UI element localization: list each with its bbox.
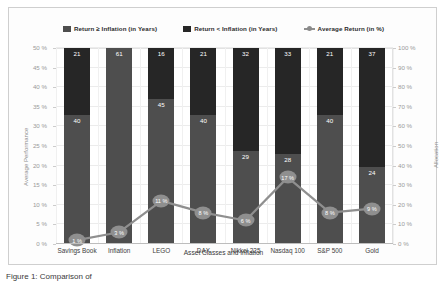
line-data-point-label: 17 % [281, 174, 294, 180]
line-data-point-label: 11 % [155, 198, 167, 204]
chart-legend: Return ≥ Inflation (in Years)Return < In… [9, 25, 438, 32]
line-data-point-label: 6 % [241, 217, 251, 223]
y-axis-left-tick-label: 45 % [13, 64, 47, 71]
y-axis-tickmark [393, 166, 396, 167]
legend-line-marker-icon [304, 28, 315, 30]
line-data-point-marker[interactable]: 17 % [279, 171, 296, 184]
y-axis-tickmark [53, 68, 56, 69]
legend-item-1[interactable]: Return < Inflation (in Years) [183, 25, 277, 32]
y-axis-right-tick-label: 40 % [398, 162, 432, 169]
legend-item-0[interactable]: Return ≥ Inflation (in Years) [63, 25, 157, 32]
x-axis-category-labels: Savings BookInflationLEGODAXNikkei 225Na… [56, 247, 393, 259]
y-axis-left-tick-label: 35 % [13, 103, 47, 110]
plot-area: 2140061164521403229332821403724 1 %3 %11… [56, 48, 393, 244]
line-data-point-marker[interactable]: 8 % [195, 206, 212, 219]
line-data-point-marker[interactable]: 9 % [363, 202, 380, 215]
y-axis-right-tick-label: 80 % [398, 83, 432, 90]
y-axis-tickmark [53, 166, 56, 167]
y-axis-right-tick-label: 50 % [398, 142, 432, 149]
y-axis-right-tick-label: 10 % [398, 220, 432, 227]
y-axis-left-tick-label: 15 % [13, 181, 47, 188]
y-axis-tickmark [393, 107, 396, 108]
y-axis-left-tick-label: 40 % [13, 83, 47, 90]
y-axis-tickmark [393, 205, 396, 206]
y-axis-right-tick-label: 20 % [398, 201, 432, 208]
line-data-point-label: 3 % [114, 229, 124, 235]
y-axis-tickmark [53, 244, 56, 245]
line-data-point-marker[interactable]: 3 % [111, 226, 128, 239]
y-axis-tickmark [393, 146, 396, 147]
y-axis-left-tick-label: 5 % [13, 220, 47, 227]
legend-square-swatch-icon [183, 26, 191, 32]
y-axis-tickmark [393, 48, 396, 49]
y-axis-right-tick-label: 60 % [398, 122, 432, 129]
average-return-line [56, 48, 393, 244]
legend-item-label: Return ≥ Inflation (in Years) [74, 25, 157, 32]
y-axis-tickmark [393, 87, 396, 88]
line-data-point-marker[interactable]: 11 % [153, 194, 170, 207]
legend-item-label: Average Return (in %) [318, 25, 385, 32]
x-axis-category-label: Gold [345, 247, 399, 254]
line-data-point-marker[interactable]: 1 % [69, 234, 86, 247]
line-data-point-label: 8 % [325, 210, 335, 216]
legend-item-label: Return < Inflation (in Years) [194, 25, 277, 32]
x-axis-baseline [56, 243, 393, 244]
y-axis-tickmark [393, 224, 396, 225]
y-axis-right-tick-label: 70 % [398, 103, 432, 110]
y-axis-tickmark [53, 185, 56, 186]
line-data-point-marker[interactable]: 8 % [321, 206, 338, 219]
line-data-point-marker[interactable]: 6 % [237, 214, 254, 227]
y-axis-tickmark [53, 107, 56, 108]
y-axis-tickmark [53, 224, 56, 225]
y-axis-left-tick-label: 20 % [13, 162, 47, 169]
y-axis-tickmark [53, 48, 56, 49]
y-axis-left-tick-label: 10 % [13, 201, 47, 208]
y-axis-tickmark [393, 68, 396, 69]
chart-screenshot: Return ≥ Inflation (in Years)Return < In… [0, 0, 445, 291]
figure-caption: Figure 1: Comparison of [6, 272, 436, 281]
y-axis-left-title: Average Performance [23, 128, 29, 186]
y-axis-tickmark [393, 126, 396, 127]
line-data-point-label: 9 % [367, 206, 377, 212]
caption-text: Figure 1: Comparison of [6, 272, 92, 281]
legend-item-2[interactable]: Average Return (in %) [304, 25, 385, 32]
y-axis-left-tick-label: 0 % [13, 240, 47, 247]
chart-frame: Return ≥ Inflation (in Years)Return < In… [8, 7, 437, 265]
y-axis-right-tick-label: 0 % [398, 240, 432, 247]
y-axis-left-tick-label: 25 % [13, 142, 47, 149]
y-axis-tickmark [53, 146, 56, 147]
y-axis-tickmark [53, 126, 56, 127]
y-axis-right-title: Allocation [433, 142, 439, 168]
y-axis-left-tick-label: 50 % [13, 44, 47, 51]
legend-square-swatch-icon [63, 26, 71, 32]
y-axis-right-tick-label: 30 % [398, 181, 432, 188]
line-data-point-label: 8 % [199, 210, 209, 216]
y-axis-tickmark [53, 87, 56, 88]
y-axis-left-tick-label: 30 % [13, 122, 47, 129]
y-axis-tickmark [393, 244, 396, 245]
y-axis-right-tick-label: 90 % [398, 64, 432, 71]
y-axis-tickmark [393, 185, 396, 186]
y-axis-right-tick-label: 100 % [398, 44, 432, 51]
y-axis-tickmark [53, 205, 56, 206]
